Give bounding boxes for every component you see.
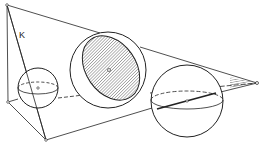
apex-point (256, 82, 259, 85)
large-sphere (70, 25, 152, 111)
label-k: K (19, 30, 25, 40)
geometry-diagram: K (0, 0, 264, 149)
small-sphere (18, 68, 58, 108)
right-sphere (151, 65, 223, 137)
